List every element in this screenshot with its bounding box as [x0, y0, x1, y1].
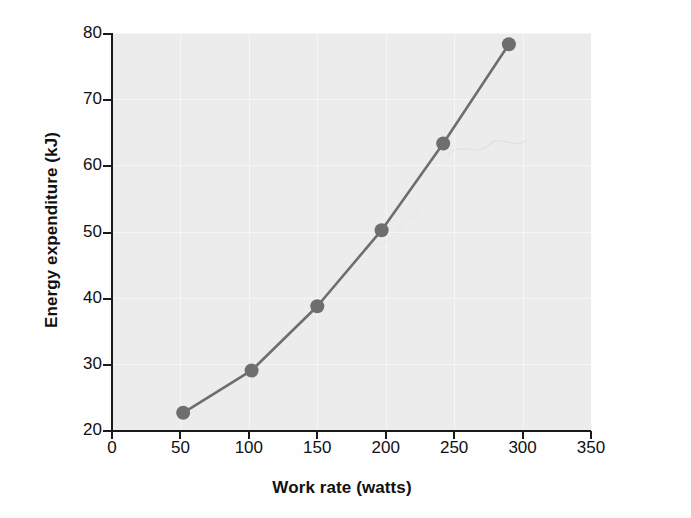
y-tick-mark: [103, 33, 112, 35]
data-point-marker: [310, 299, 324, 313]
data-point-marker: [502, 37, 516, 51]
y-tick-label: 60: [62, 155, 102, 175]
y-tick-label: 30: [62, 354, 102, 374]
data-point-marker: [176, 406, 190, 420]
y-tick-label: 50: [62, 222, 102, 242]
y-axis-title: Energy expenditure (kJ): [36, 10, 68, 450]
data-point-marker: [375, 223, 389, 237]
x-tick-label: 350: [561, 438, 621, 458]
y-axis-title-wrap: Energy expenditure (kJ): [4, 10, 36, 450]
y-tick-mark: [103, 298, 112, 300]
data-markers: [176, 37, 516, 420]
x-tick-label: 50: [150, 438, 210, 458]
data-point-marker: [245, 363, 259, 377]
y-tick-label: 20: [62, 420, 102, 440]
y-tick-mark: [103, 99, 112, 101]
x-tick-label: 150: [287, 438, 347, 458]
x-tick-label: 250: [424, 438, 484, 458]
data-point-marker: [436, 137, 450, 151]
plot-area: [112, 33, 591, 430]
x-tick-label: 300: [493, 438, 553, 458]
data-layer: [112, 33, 591, 430]
data-line: [183, 44, 509, 413]
y-tick-label: 40: [62, 288, 102, 308]
y-tick-label: 70: [62, 89, 102, 109]
x-axis-title: Work rate (watts): [111, 478, 573, 498]
y-tick-mark: [103, 232, 112, 234]
y-tick-mark: [103, 364, 112, 366]
y-tick-label: 80: [62, 23, 102, 43]
y-tick-mark: [103, 165, 112, 167]
x-tick-label: 200: [356, 438, 416, 458]
x-axis-line: [111, 430, 591, 432]
chart-figure: 20304050607080 050100150200250300350 Ene…: [0, 0, 691, 518]
x-tick-label: 100: [219, 438, 279, 458]
x-tick-label: 0: [82, 438, 142, 458]
